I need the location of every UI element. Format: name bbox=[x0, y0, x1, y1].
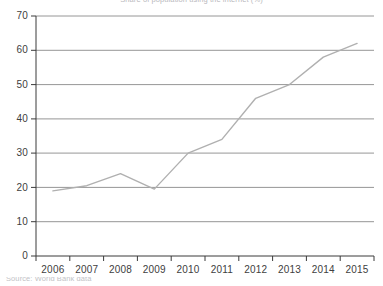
line-chart-svg bbox=[0, 0, 383, 286]
x-tick-marks bbox=[36, 256, 374, 261]
y-tick-label-40: 40 bbox=[2, 114, 28, 124]
y-tick-label-70: 70 bbox=[2, 11, 28, 21]
y-tick-label-50: 50 bbox=[2, 80, 28, 90]
y-tick-marks bbox=[31, 16, 36, 256]
y-tick-label-10: 10 bbox=[2, 217, 28, 227]
chart-figure: Share of population using the internet (… bbox=[0, 0, 383, 286]
y-tick-label-30: 30 bbox=[2, 148, 28, 158]
y-tick-label-20: 20 bbox=[2, 183, 28, 193]
chart-caption-text: Source: World Bank data bbox=[6, 277, 92, 283]
y-tick-label-0: 0 bbox=[2, 251, 28, 261]
y-tick-label-60: 60 bbox=[2, 45, 28, 55]
x-tick-label-2015: 2015 bbox=[337, 265, 377, 275]
gridlines bbox=[36, 16, 374, 222]
chart-caption-cutoff: Source: World Bank data bbox=[0, 277, 383, 286]
data-line-series bbox=[53, 43, 357, 190]
plot-area: 70 60 50 40 30 20 10 0 2006 2007 2008 20… bbox=[0, 0, 383, 286]
